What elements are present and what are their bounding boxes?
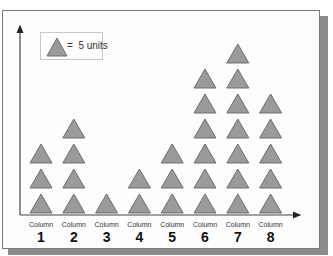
column-word: Column (122, 221, 156, 229)
triangle-icon (194, 144, 216, 163)
column-word: Column (155, 221, 189, 229)
triangle-icon (227, 119, 249, 138)
column-number: 1 (24, 230, 58, 245)
column-word: Column (24, 221, 58, 229)
triangle-icon (128, 194, 150, 213)
column-label-4: Column4 (122, 221, 156, 245)
triangle-icon (260, 119, 282, 138)
triangle-icon (194, 94, 216, 113)
column-number: 8 (254, 230, 288, 245)
triangle-icon (194, 69, 216, 88)
triangle-icon (260, 194, 282, 213)
triangle-icon (194, 119, 216, 138)
column-number: 7 (221, 230, 255, 245)
triangle-icon (260, 169, 282, 188)
column-number: 4 (122, 230, 156, 245)
column-number: 3 (90, 230, 124, 245)
column-word: Column (57, 221, 91, 229)
triangle-icon (30, 194, 52, 213)
column-number: 2 (57, 230, 91, 245)
legend-box: = 5 units (40, 32, 103, 60)
column-label-1: Column1 (24, 221, 58, 245)
triangle-icon (227, 44, 249, 63)
triangle-icon (227, 94, 249, 113)
legend-label: = 5 units (67, 40, 108, 51)
triangle-icon (227, 144, 249, 163)
triangle-icon (260, 94, 282, 113)
triangle-icon (227, 69, 249, 88)
triangle-icon (194, 194, 216, 213)
column-label-8: Column8 (254, 221, 288, 245)
triangle-icon (63, 119, 85, 138)
triangle-icon (161, 169, 183, 188)
column-number: 6 (188, 230, 222, 245)
column-number: 5 (155, 230, 189, 245)
triangle-icon (227, 194, 249, 213)
triangle-icon (227, 169, 249, 188)
triangle-icon (128, 169, 150, 188)
triangle-icon (30, 144, 52, 163)
column-word: Column (90, 221, 124, 229)
column-word: Column (221, 221, 255, 229)
column-label-6: Column6 (188, 221, 222, 245)
triangle-icon (63, 169, 85, 188)
column-label-3: Column3 (90, 221, 124, 245)
triangle-icon (194, 169, 216, 188)
triangle-symbols (30, 44, 282, 213)
column-label-2: Column2 (57, 221, 91, 245)
column-word: Column (254, 221, 288, 229)
triangle-icon (96, 194, 118, 213)
triangle-icon (63, 144, 85, 163)
triangle-icon (63, 194, 85, 213)
triangle-icon (260, 144, 282, 163)
triangle-icon (161, 144, 183, 163)
column-label-7: Column7 (221, 221, 255, 245)
triangle-icon (161, 194, 183, 213)
column-word: Column (188, 221, 222, 229)
column-label-5: Column5 (155, 221, 189, 245)
triangle-icon (46, 37, 68, 57)
triangle-icon (30, 169, 52, 188)
